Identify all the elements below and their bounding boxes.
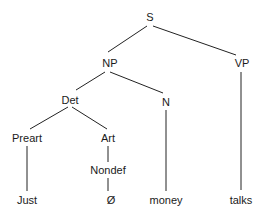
leaf-just: Just [17,195,37,206]
node-preart: Preart [12,133,42,144]
leaf-null: Ø [107,195,116,206]
node-vp: VP [235,58,250,69]
leaf-talks: talks [230,195,253,206]
node-det: Det [61,95,78,106]
node-np: NP [102,58,117,69]
node-n: N [162,97,170,108]
node-s: S [146,12,153,23]
syntax-tree-diagram: S NP VP Det N Preart Art Nondef Just Ø m… [0,0,267,215]
node-art: Art [101,133,115,144]
node-nondef: Nondef [90,165,125,176]
leaf-money: money [149,195,182,206]
tree-edges [0,0,267,215]
